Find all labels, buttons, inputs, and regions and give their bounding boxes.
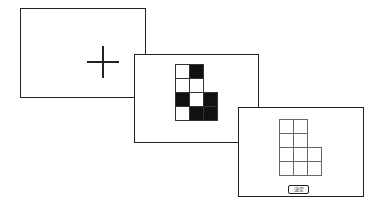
- response-panel: 決定: [238, 107, 364, 197]
- grid-cell: [175, 92, 190, 107]
- grid-cell: [189, 106, 204, 121]
- fixation-cross-icon: [87, 46, 119, 78]
- grid-cell: [189, 64, 204, 79]
- confirm-button[interactable]: 決定: [288, 185, 309, 194]
- grid-cell[interactable]: [279, 147, 294, 162]
- grid-cell: [175, 78, 190, 93]
- grid-cell: [189, 78, 204, 93]
- grid-cell[interactable]: [279, 161, 294, 176]
- grid-cell[interactable]: [293, 147, 308, 162]
- grid-cell[interactable]: [307, 147, 322, 162]
- grid-cell: [175, 64, 190, 79]
- grid-cell[interactable]: [293, 119, 308, 134]
- grid-cell[interactable]: [293, 133, 308, 148]
- grid-cell[interactable]: [279, 133, 294, 148]
- grid-cell: [203, 106, 218, 121]
- fixation-panel: [20, 8, 146, 98]
- grid-cell: [189, 92, 204, 107]
- grid-cell[interactable]: [279, 119, 294, 134]
- grid-cell: [175, 106, 190, 121]
- grid-cell[interactable]: [307, 161, 322, 176]
- grid-cell: [203, 92, 218, 107]
- grid-cell[interactable]: [293, 161, 308, 176]
